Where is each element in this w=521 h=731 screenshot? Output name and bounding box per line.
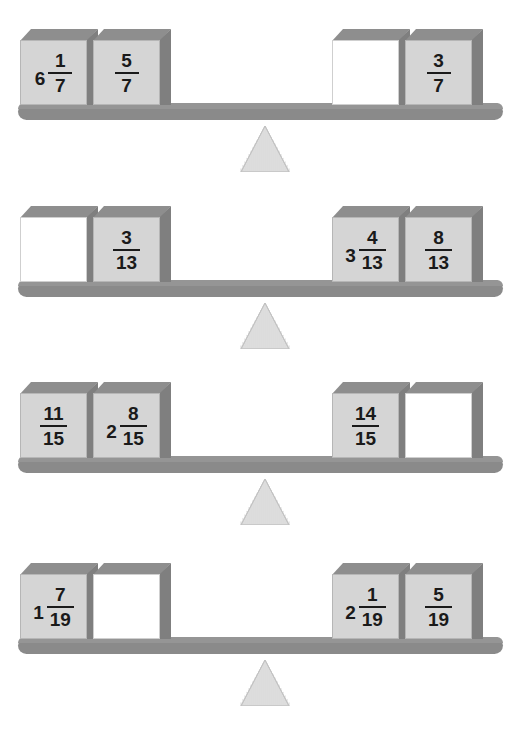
balance-1-left-block-1-fraction: 17 (48, 51, 72, 95)
balance-4-right-block-2-numerator: 5 (430, 585, 447, 604)
balance-3-left-block-2: 2815 (93, 382, 171, 458)
balance-2-right-block-2-side-face (472, 206, 483, 282)
balance-1-left-block-2-fraction: 57 (115, 51, 139, 95)
balance-4-right-block-1-whole-number: 2 (345, 603, 356, 622)
balance-3-right-block-1: 1415 (332, 382, 410, 458)
balance-2-left-block-2-denominator: 13 (113, 253, 140, 272)
balance-4-left-block-1-whole-number: 1 (33, 603, 44, 622)
balance-1-fulcrum-triangle (239, 126, 291, 172)
balance-1-left-block-1-whole-number: 6 (35, 69, 46, 88)
balance-2-fulcrum-triangle (239, 303, 291, 349)
balance-3-left-block-1-expression: 1115 (40, 404, 67, 448)
balance-1-right-block-2-front-face: 37 (405, 40, 472, 105)
balance-4-right-block-2-side-face (472, 563, 483, 639)
balance-3-left-block-2-numerator: 8 (125, 404, 142, 423)
balance-1-right-block-2-denominator: 7 (430, 76, 447, 95)
balance-4-left-block-1-fraction: 719 (47, 585, 74, 629)
balance-1-left-block-1-denominator: 7 (52, 76, 69, 95)
balance-4-right-block-2-front-face: 519 (405, 574, 472, 639)
balance-4-left-block-2-front-face (93, 574, 160, 639)
balance-1-right-block-2-side-face (472, 29, 483, 105)
balance-3-right-block-2[interactable] (405, 382, 483, 458)
balance-4-right-block-1-numerator: 1 (364, 585, 381, 604)
balance-2-right-block-2: 813 (405, 206, 483, 282)
balance-3-left-block-2-expression: 2815 (106, 404, 147, 448)
balance-4-left-block-1-denominator: 19 (47, 610, 74, 629)
balance-3-right-block-1-numerator: 14 (352, 404, 379, 423)
balance-2-right-block-1-numerator: 4 (364, 228, 381, 247)
balance-2-left-block-2-fraction-bar (113, 249, 140, 251)
balance-3-left-block-1-front-face: 1115 (20, 393, 87, 458)
balance-3-left-block-1-numerator: 11 (40, 404, 66, 423)
balance-4-fulcrum-triangle (239, 660, 291, 706)
balance-3-left-block-1: 1115 (20, 382, 98, 458)
balance-3-left-block-1-fraction: 1115 (40, 404, 67, 448)
balance-2-right-block-1-expression: 3413 (345, 228, 386, 272)
balance-3-left-block-2-fraction-bar (120, 425, 147, 427)
balance-3-left-block-2-fraction: 815 (120, 404, 147, 448)
balance-1-right-block-2: 37 (405, 29, 483, 105)
balance-1-right-block-2-expression: 37 (427, 51, 451, 95)
balance-3-right-block-1-front-face: 1415 (332, 393, 399, 458)
balance-2-left-block-2: 313 (93, 206, 171, 282)
balance-3-left-block-2-denominator: 15 (120, 429, 147, 448)
balance-2: 3133413813 (0, 177, 521, 359)
balance-3-fulcrum-triangle (239, 479, 291, 525)
balance-1-left-block-2-numerator: 5 (118, 51, 135, 70)
balance-4-right-block-1-expression: 2119 (345, 585, 386, 629)
balance-3-right-block-2-side-face (472, 382, 483, 458)
balance-1-right-block-1[interactable] (332, 29, 410, 105)
balance-4-left-block-1-expression: 1719 (33, 585, 74, 629)
balance-2-right-block-2-fraction: 813 (425, 228, 452, 272)
balance-2-right-block-2-denominator: 13 (425, 253, 452, 272)
balance-1-left-block-2-front-face: 57 (93, 40, 160, 105)
balance-4-left-block-2-side-face (160, 563, 171, 639)
balance-2-right-block-2-numerator: 8 (430, 228, 447, 247)
balance-2-right-block-2-front-face: 813 (405, 217, 472, 282)
balance-4-right-block-2-fraction-bar (425, 606, 452, 608)
balance-4-right-block-2: 519 (405, 563, 483, 639)
balance-3-left-block-2-whole-number: 2 (106, 422, 117, 441)
balance-1-left-block-1-expression: 617 (35, 51, 73, 95)
balance-1-left-block-2-side-face (160, 29, 171, 105)
balance-3-left-block-1-denominator: 15 (40, 429, 67, 448)
balance-2-right-block-1-whole-number: 3 (345, 246, 356, 265)
balance-2-left-block-2-front-face: 313 (93, 217, 160, 282)
balance-4-right-block-1-front-face: 2119 (332, 574, 399, 639)
balance-4: 17192119519 (0, 534, 521, 716)
balance-4-right-block-1-fraction-bar (359, 606, 386, 608)
balance-3-right-block-2-front-face (405, 393, 472, 458)
balance-2-right-block-2-fraction-bar (425, 249, 452, 251)
balance-4-right-block-2-denominator: 19 (425, 610, 452, 629)
balance-2-left-block-2-fraction: 313 (113, 228, 140, 272)
balance-3: 111528151415 (0, 353, 521, 535)
balance-1-left-block-1: 617 (20, 29, 98, 105)
balance-3-left-block-2-front-face: 2815 (93, 393, 160, 458)
balance-2-right-block-1-denominator: 13 (359, 253, 386, 272)
balance-4-right-block-2-expression: 519 (425, 585, 452, 629)
balance-3-right-block-1-expression: 1415 (352, 404, 379, 448)
balance-2-right-block-1: 3413 (332, 206, 410, 282)
balance-1-left-block-2-fraction-bar (115, 72, 139, 74)
balance-2-left-block-1-front-face (20, 217, 87, 282)
balance-1-left-block-1-numerator: 1 (52, 51, 69, 70)
balance-1-left-block-2: 57 (93, 29, 171, 105)
balance-1-left-block-2-denominator: 7 (118, 76, 135, 95)
balance-1-right-block-1-front-face (332, 40, 399, 105)
balance-3-right-block-1-fraction-bar (352, 425, 379, 427)
balance-2-left-block-2-expression: 313 (113, 228, 140, 272)
balance-3-right-block-1-denominator: 15 (352, 429, 379, 448)
balance-2-right-block-2-expression: 813 (425, 228, 452, 272)
balance-2-right-block-1-front-face: 3413 (332, 217, 399, 282)
balance-2-right-block-1-fraction-bar (359, 249, 386, 251)
balance-1-right-block-2-fraction-bar (427, 72, 451, 74)
balance-4-left-block-1-front-face: 1719 (20, 574, 87, 639)
balance-1-right-block-2-numerator: 3 (430, 51, 447, 70)
balance-4-left-block-1-fraction-bar (47, 606, 74, 608)
balance-2-left-block-1[interactable] (20, 206, 98, 282)
balance-4-left-block-1: 1719 (20, 563, 98, 639)
balance-1-left-block-1-front-face: 617 (20, 40, 87, 105)
balance-2-left-block-2-numerator: 3 (118, 228, 135, 247)
balance-4-right-block-1-fraction: 119 (359, 585, 386, 629)
balance-4-left-block-2[interactable] (93, 563, 171, 639)
